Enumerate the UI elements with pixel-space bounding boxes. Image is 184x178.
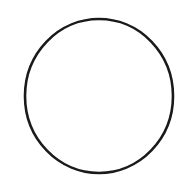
circle-diagram — [0, 0, 184, 178]
circle-outline — [25, 19, 173, 173]
diagram-canvas — [0, 0, 184, 178]
